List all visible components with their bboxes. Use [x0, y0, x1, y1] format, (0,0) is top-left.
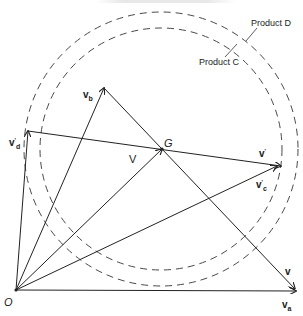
vector-V	[16, 149, 162, 290]
vector-diagram	[0, 0, 303, 316]
product-d-label: Product D	[251, 19, 291, 28]
G-label: G	[164, 138, 173, 149]
v-b-label: vb	[83, 90, 93, 102]
product-c-label: Product C	[199, 58, 239, 67]
origin-label: O	[4, 297, 13, 308]
vector-v-b	[16, 88, 104, 290]
v-d-prime-label: v'd	[9, 137, 20, 150]
v-c-prime-label: v'c	[256, 179, 267, 192]
vector-v-c-prime	[16, 166, 277, 290]
v-a-label: va	[282, 300, 291, 312]
product-d-leader	[246, 28, 257, 41]
origin-dot	[14, 288, 17, 291]
product-c-leader	[225, 44, 237, 57]
v-label: v	[285, 267, 291, 277]
v-prime-label: v'	[259, 148, 266, 159]
vector-v-prime	[28, 131, 281, 166]
V-label: V	[129, 154, 136, 165]
vector-v-a	[16, 290, 296, 291]
